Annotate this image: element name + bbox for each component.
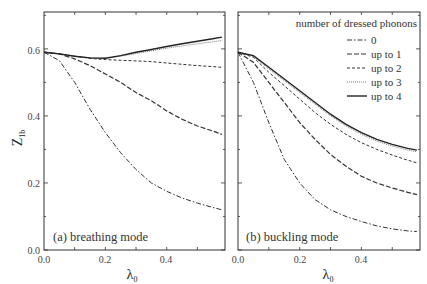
xtick-label: 0.4 (160, 254, 173, 265)
series-dash-dot-line (44, 52, 222, 210)
x-axis-label-b: λ0 (323, 267, 334, 284)
xtick-label: 0.0 (232, 254, 245, 265)
panel-b-label: (b) buckling mode (246, 230, 339, 244)
xtick-label: 0.2 (99, 254, 112, 265)
legend-entry: 0 (371, 34, 377, 46)
chart-canvas: 0.0 0.2 0.4 0.6 0.0 0.2 0.4 0.0 0.2 0.4 … (0, 0, 427, 284)
legend-title: number of dressed phonons (296, 17, 417, 29)
ytick-label: 0.2 (28, 178, 41, 189)
panel-a-label: (a) breathing mode (53, 230, 149, 244)
legend-entry: up to 4 (371, 90, 402, 102)
data-curves (44, 37, 417, 232)
series-solid-line (44, 37, 222, 58)
panel-a-frame (44, 12, 225, 250)
y-axis-label: Z1b (10, 130, 27, 147)
svg-text:Z1b: Z1b (10, 130, 27, 147)
legend-entry: up to 1 (371, 48, 402, 60)
axis-ticks (44, 12, 420, 250)
xtick-label: 0.4 (355, 254, 368, 265)
xtick-label: 0.2 (294, 254, 307, 265)
legend-entry: up to 2 (371, 62, 402, 74)
series-short-dash-line (44, 52, 222, 67)
series-long-dash-line (44, 52, 222, 134)
x-axis-label-a: λ0 (127, 267, 138, 284)
legend-entry: up to 3 (371, 76, 402, 88)
ytick-label: 0.4 (28, 111, 41, 122)
legend: number of dressed phonons 0 up to 1 up t… (296, 17, 417, 102)
ytick-label: 0.6 (28, 45, 41, 56)
xtick-label: 0.0 (38, 254, 51, 265)
